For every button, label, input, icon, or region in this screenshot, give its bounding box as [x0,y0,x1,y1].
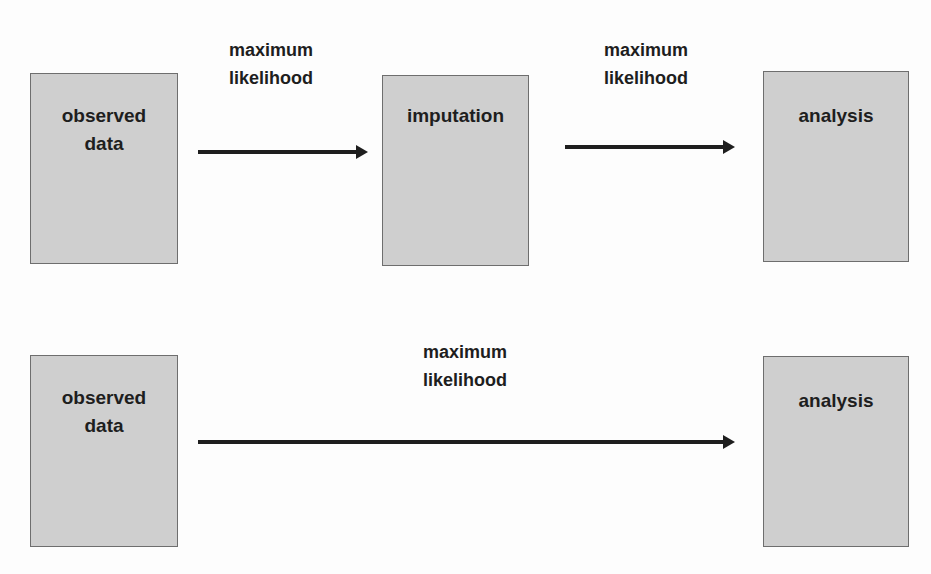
edge-label-top-2: maximum likelihood [566,36,726,92]
node-analysis-top: analysis [763,71,909,262]
node-label: analysis [764,102,908,130]
arrow-imputation-to-analysis [565,145,725,149]
node-observed-data-top: observed data [30,73,178,264]
arrow-observed-to-analysis [198,440,725,444]
arrowhead-icon [723,435,735,449]
arrowhead-icon [356,145,368,159]
arrowhead-icon [723,140,735,154]
arrow-observed-to-imputation [198,150,358,154]
node-analysis-bottom: analysis [763,356,909,547]
node-label: observed data [31,102,177,158]
node-observed-data-bottom: observed data [30,355,178,547]
edge-label-top-1: maximum likelihood [191,36,351,92]
node-label: analysis [764,387,908,415]
node-imputation: imputation [382,75,529,266]
edge-label-bottom: maximum likelihood [385,338,545,394]
node-label: observed data [31,384,177,440]
node-label: imputation [383,102,528,130]
